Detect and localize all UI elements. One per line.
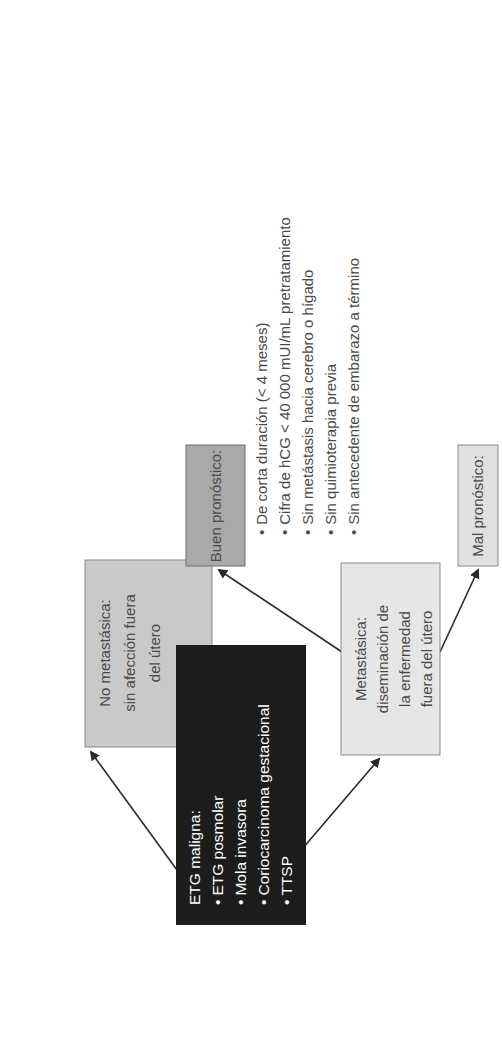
arrow-root-to-non-metastatic bbox=[91, 752, 177, 870]
node-poor-prognosis: Mal pronóstico: bbox=[458, 445, 498, 566]
metastatic-line-2: diseminación de bbox=[374, 605, 391, 713]
criterion-item: •Sin metástasis hacia cerebro o hígado bbox=[299, 270, 316, 535]
etg-item-2: Mola invasora bbox=[232, 799, 249, 896]
metastatic-line-4: fuera del útero bbox=[418, 611, 435, 708]
metastatic-line-1: Metastásica: bbox=[352, 617, 369, 701]
criterion-item: •Sin antecedente de embarazo a término bbox=[345, 258, 362, 535]
etg-item-bullet: •ETG posmolar bbox=[209, 796, 226, 905]
non-metastatic-line-2: sin afección fuera bbox=[121, 594, 138, 712]
criterion-4: Sin quimioterapia previa bbox=[322, 363, 339, 525]
criterion-item: •Cifra de hCG < 40 000 mUI/mL pretratami… bbox=[276, 217, 293, 535]
etg-item-bullet: •Mola invasora bbox=[232, 799, 249, 905]
poor-prognosis-label: Mal pronóstico: bbox=[469, 455, 486, 557]
criterion-5: Sin antecedente de embarazo a término bbox=[345, 258, 362, 525]
arrow-root-to-metastatic bbox=[303, 759, 379, 848]
etg-item-4: TTSP bbox=[278, 856, 295, 896]
metastatic-line-3: la enfermedad bbox=[396, 611, 413, 707]
criterion-1: De corta duración (< 4 meses) bbox=[253, 323, 270, 525]
arrow-metastatic-to-good-prognosis bbox=[219, 570, 342, 652]
node-metastatic: Metastásica: diseminación de la enfermed… bbox=[341, 563, 440, 755]
criterion-3: Sin metástasis hacia cerebro o hígado bbox=[299, 270, 316, 525]
non-metastatic-line-3: del útero bbox=[146, 624, 163, 682]
node-etg-maligna: ETG maligna: •ETG posmolar •Mola invasor… bbox=[176, 645, 306, 925]
criterion-item: •De corta duración (< 4 meses) bbox=[253, 323, 270, 535]
etg-item-3: Coriocarcinoma gestacional bbox=[255, 704, 272, 895]
arrow-metastatic-to-poor-prognosis bbox=[440, 570, 478, 652]
etg-maligna-title: ETG maligna: bbox=[186, 810, 203, 905]
flowchart: No metastásica: sin afección fuera del ú… bbox=[0, 0, 502, 1055]
etg-item-1: ETG posmolar bbox=[209, 796, 226, 896]
etg-item-bullet: •Coriocarcinoma gestacional bbox=[255, 704, 272, 905]
criterion-2: Cifra de hCG < 40 000 mUI/mL pretratamie… bbox=[276, 217, 293, 525]
node-good-prognosis: Buen pronóstico: bbox=[186, 445, 245, 566]
good-prognosis-label: Buen pronóstico: bbox=[207, 450, 224, 563]
good-prognosis-criteria: •De corta duración (< 4 meses) •Cifra de… bbox=[253, 217, 362, 535]
criterion-item: •Sin quimioterapia previa bbox=[322, 363, 339, 535]
non-metastatic-line-1: No metastásica: bbox=[96, 599, 113, 707]
